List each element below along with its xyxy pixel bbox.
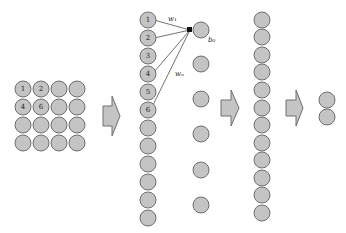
hidden-node xyxy=(193,126,209,142)
bias-label: b₀ xyxy=(208,36,215,44)
hidden-node xyxy=(193,91,209,107)
output-layer xyxy=(319,92,335,125)
flat-label: 5 xyxy=(146,88,150,96)
layer2-node xyxy=(254,47,270,63)
grid-node xyxy=(51,81,67,97)
grid-node xyxy=(33,135,49,151)
second-layer xyxy=(254,12,270,221)
flat-node xyxy=(140,138,156,154)
layer2-node xyxy=(254,12,270,28)
grid-node xyxy=(69,99,85,115)
grid-label: 4 xyxy=(21,103,26,111)
flat-node xyxy=(140,120,156,136)
flat-label: 4 xyxy=(146,70,151,78)
layer2-node xyxy=(254,29,270,45)
layer2-node xyxy=(254,152,270,168)
grid-node xyxy=(69,117,85,133)
arrow-icon xyxy=(103,96,120,136)
grid-node xyxy=(15,135,31,151)
grid-node xyxy=(15,117,31,133)
grid-label: 1 xyxy=(21,85,25,93)
grid-node xyxy=(69,81,85,97)
layer2-node xyxy=(254,205,270,221)
grid-node xyxy=(51,135,67,151)
output-node xyxy=(319,109,335,125)
weight-wn-label: wₙ xyxy=(175,70,184,78)
flat-node xyxy=(140,210,156,226)
grid-label: 2 xyxy=(39,85,43,93)
grid-node xyxy=(51,117,67,133)
grid-node xyxy=(69,135,85,151)
layer2-node xyxy=(254,100,270,116)
layer2-node xyxy=(254,64,270,80)
flat-label: 2 xyxy=(146,34,150,42)
hidden-node xyxy=(193,197,209,213)
flat-node xyxy=(140,174,156,190)
grid-node xyxy=(51,99,67,115)
flat-node xyxy=(140,156,156,172)
flat-label: 3 xyxy=(146,52,150,60)
hidden-node xyxy=(193,162,209,178)
arrow-icon xyxy=(286,90,303,126)
layer2-node xyxy=(254,135,270,151)
layer2-node xyxy=(254,170,270,186)
weight-w1-label: w₁ xyxy=(168,15,177,23)
hidden-node xyxy=(193,22,209,38)
layer2-node xyxy=(254,187,270,203)
flattened-column: 1 2 3 4 5 6 xyxy=(140,12,156,226)
layer2-node xyxy=(254,117,270,133)
layer2-node xyxy=(254,82,270,98)
input-grid: 1 2 4 6 xyxy=(15,81,85,151)
grid-label: 6 xyxy=(39,103,44,111)
flat-node xyxy=(140,192,156,208)
flat-label: 1 xyxy=(146,16,150,24)
diagram-canvas: 1 2 4 6 w₁ wₙ 1 2 3 4 5 6 xyxy=(0,0,346,233)
weight-edges xyxy=(152,20,190,107)
grid-node xyxy=(33,117,49,133)
flat-label: 6 xyxy=(146,106,151,114)
output-node xyxy=(319,92,335,108)
arrow-icon xyxy=(221,90,239,126)
hidden-node xyxy=(193,56,209,72)
summation-node-icon xyxy=(187,27,192,32)
hidden-layer xyxy=(193,22,209,213)
